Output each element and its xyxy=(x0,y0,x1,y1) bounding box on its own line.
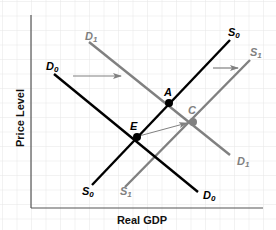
point-a-label: A xyxy=(163,86,172,98)
aggregate-supply-demand-diagram: Price Level Real GDP A E C D0 D0 D1 D1 S… xyxy=(0,0,276,230)
y-axis-label: Price Level xyxy=(14,89,26,147)
point-c-label: C xyxy=(188,104,197,116)
x-axis-label: Real GDP xyxy=(117,214,167,226)
point-e-label: E xyxy=(130,120,138,132)
point-c-marker xyxy=(189,118,197,126)
point-e-marker xyxy=(133,133,141,141)
point-a-marker xyxy=(165,99,173,107)
